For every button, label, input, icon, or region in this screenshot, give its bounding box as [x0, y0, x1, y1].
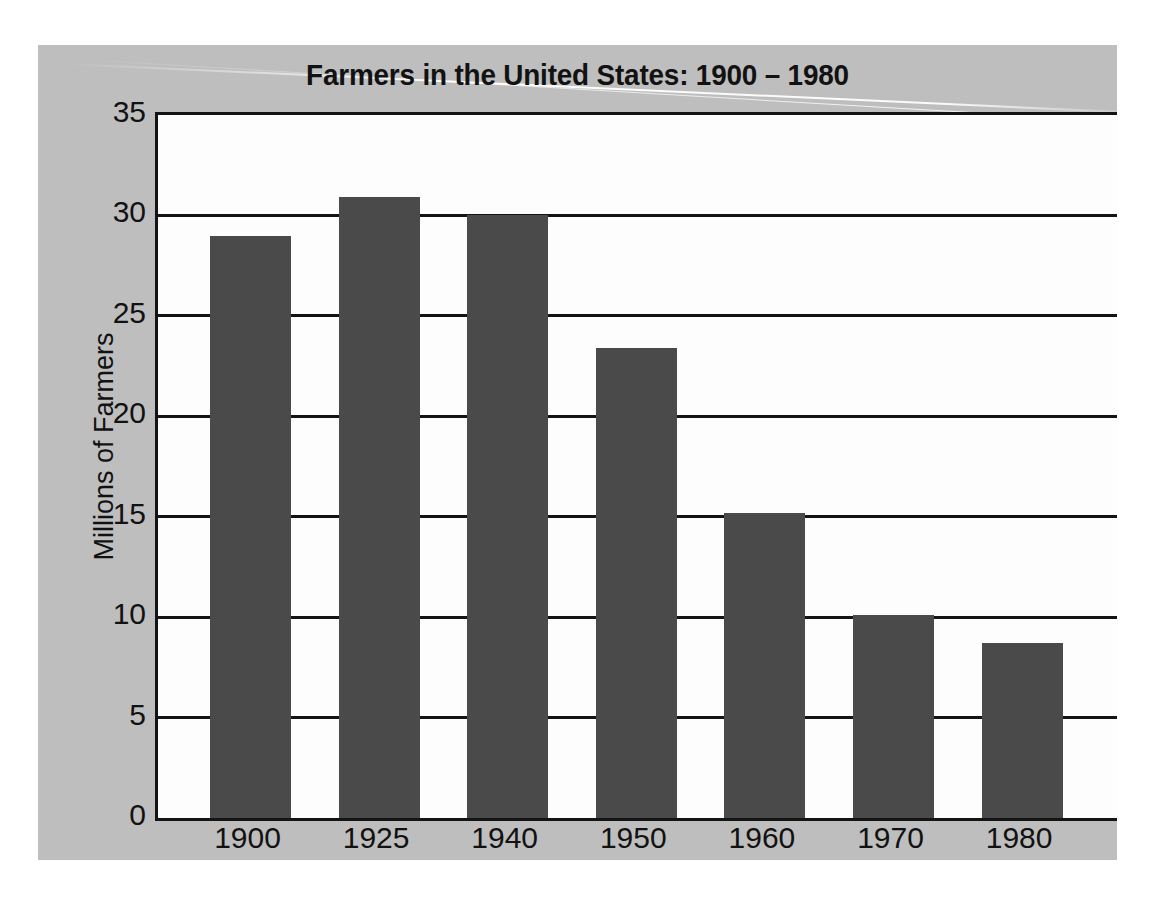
bar — [596, 348, 677, 818]
bar — [982, 643, 1063, 818]
x-tick-label: 1940 — [450, 823, 559, 853]
x-tick-label: 1900 — [193, 823, 302, 853]
bar — [339, 197, 420, 818]
y-tick-label: 15 — [76, 499, 146, 529]
y-tick-label: 20 — [76, 398, 146, 428]
x-tick-label: 1970 — [836, 823, 945, 853]
chart-title: Farmers in the United States: 1900 – 198… — [76, 58, 1079, 92]
x-tick-label: 1980 — [965, 823, 1074, 853]
y-axis-tick-labels: 05101520253035 — [68, 112, 146, 815]
plot-area — [155, 112, 1117, 821]
bar — [467, 215, 548, 818]
x-tick-label: 1950 — [579, 823, 688, 853]
y-tick-label: 10 — [76, 599, 146, 629]
bar — [210, 236, 291, 818]
bar-series — [158, 115, 1117, 818]
y-tick-label: 30 — [76, 197, 146, 227]
x-axis-tick-labels: 1900192519401950196019701980 — [155, 823, 1117, 860]
chart-card: Farmers in the United States: 1900 – 198… — [38, 45, 1117, 860]
y-tick-label: 0 — [76, 800, 146, 830]
x-tick-label: 1960 — [707, 823, 816, 853]
y-tick-label: 35 — [76, 97, 146, 127]
y-tick-label: 5 — [76, 700, 146, 730]
y-tick-label: 25 — [76, 298, 146, 328]
x-tick-label: 1925 — [322, 823, 431, 853]
bar — [853, 615, 934, 818]
bar — [724, 513, 805, 818]
